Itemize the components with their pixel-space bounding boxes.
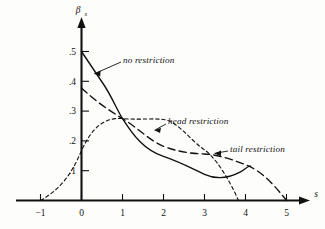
y-axis-title-subscript: s [85, 10, 88, 17]
y-tick-label-0.5: .5 [69, 47, 76, 57]
y-tick-label-0.1: .1 [69, 166, 76, 176]
series-curves [41, 52, 287, 201]
y-axis-arrowhead [77, 17, 85, 28]
y-tick-label-0.2: .2 [69, 136, 76, 146]
x-tick-label-4: 4 [243, 208, 248, 218]
y-tick-label-0.3: .3 [69, 106, 76, 116]
series-labels: no restriction head restriction tail res… [123, 55, 285, 154]
series-label-tail-restriction: tail restriction [230, 144, 285, 154]
y-tick-labels: .1 .2 .3 .4 .5 [69, 47, 76, 176]
series-label-no-restriction: no restriction [123, 55, 175, 65]
curve-no-restriction [82, 52, 251, 178]
chart-figure: −1 0 1 2 3 4 5 .1 .2 .3 .4 .5 β s s [0, 0, 325, 229]
axes-group [16, 17, 310, 205]
x-tick-label--1: −1 [35, 208, 45, 218]
x-tick-label-2: 2 [161, 208, 166, 218]
x-axis-arrowhead [299, 196, 310, 204]
chart-canvas: −1 0 1 2 3 4 5 .1 .2 .3 .4 .5 β s s [0, 0, 325, 229]
x-tick-label-1: 1 [120, 208, 125, 218]
y-axis-ticks [82, 52, 90, 171]
x-tick-label-5: 5 [284, 208, 289, 218]
x-axis-title: s [314, 189, 318, 199]
series-label-head-restriction: head restriction [168, 116, 229, 126]
annotation-leaders [94, 62, 228, 156]
x-tick-label-0: 0 [79, 208, 84, 218]
x-tick-label-3: 3 [202, 208, 207, 218]
y-axis-title: β [75, 5, 81, 15]
y-tick-label-0.4: .4 [69, 77, 76, 87]
x-tick-labels: −1 0 1 2 3 4 5 [35, 208, 289, 218]
